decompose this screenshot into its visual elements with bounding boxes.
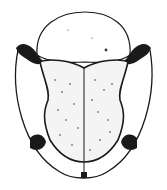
apex-mark	[81, 172, 87, 178]
right-side-patch	[121, 135, 137, 150]
pronotum	[37, 12, 130, 62]
left-side-patch	[30, 135, 46, 150]
beetle-illustration	[0, 0, 167, 190]
